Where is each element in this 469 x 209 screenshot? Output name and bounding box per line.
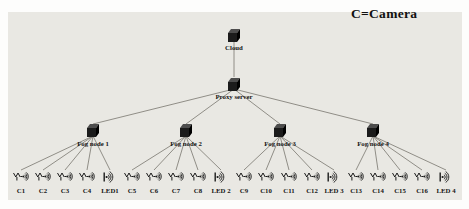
proxy-server-label: Proxy server	[215, 93, 252, 100]
fog-node-label: Fog node 3	[264, 140, 296, 147]
device-label: C11	[283, 187, 295, 194]
device-label: C5	[128, 187, 137, 194]
camera-icon	[259, 172, 274, 180]
camera-icon	[169, 172, 184, 180]
fog-node-icon	[367, 128, 376, 137]
figure-network-diagram: C=Camera CloudProxy serverFog node 1Fog …	[0, 0, 469, 209]
edge-line	[93, 89, 234, 124]
camera-icon	[415, 172, 430, 180]
device-label: LED 4	[436, 187, 456, 194]
device-label: C9	[240, 187, 249, 194]
camera-icon	[349, 172, 364, 180]
device-label: LED1	[101, 187, 119, 194]
fog-node-label: Fog node 4	[357, 140, 389, 147]
cloud-node-icon	[228, 33, 237, 42]
device-label: C14	[372, 187, 384, 194]
camera-icon	[237, 172, 252, 180]
device-label: LED 2	[211, 187, 231, 194]
fog-node-label: Fog node 1	[77, 140, 109, 147]
device-label: C7	[172, 187, 181, 194]
device-label: C1	[17, 187, 26, 194]
camera-icon	[58, 172, 73, 180]
device-label: C6	[150, 187, 159, 194]
device-label: C8	[194, 187, 203, 194]
device-label: C16	[416, 187, 428, 194]
device-label: C12	[306, 187, 318, 194]
device-label: C15	[394, 187, 406, 194]
led-icon	[440, 172, 449, 183]
led-icon	[328, 172, 337, 183]
camera-icon	[191, 172, 206, 180]
camera-icon	[371, 172, 386, 180]
device-label: C2	[39, 187, 48, 194]
camera-icon	[125, 172, 140, 180]
network-topology-canvas: CloudProxy serverFog node 1Fog node 2Fog…	[0, 0, 469, 209]
led-icon	[104, 172, 113, 183]
fog-node-label: Fog node 2	[170, 140, 202, 147]
device-label: C13	[350, 187, 362, 194]
led-icon	[215, 172, 224, 183]
camera-icon	[282, 172, 297, 180]
device-label: C4	[83, 187, 92, 194]
proxy-server-node-icon	[228, 82, 237, 91]
fog-node-icon	[87, 128, 96, 137]
fog-node-icon	[180, 128, 189, 137]
cloud-label: Cloud	[225, 44, 243, 51]
fog-node-icon	[274, 128, 283, 137]
camera-icon	[393, 172, 408, 180]
camera-icon	[80, 172, 95, 180]
camera-icon	[305, 172, 320, 180]
device-label: LED 3	[324, 187, 344, 194]
edge-line	[234, 89, 373, 124]
device-label: C3	[61, 187, 70, 194]
camera-icon	[14, 172, 29, 180]
camera-icon	[36, 172, 51, 180]
device-label: C10	[260, 187, 272, 194]
camera-icon	[147, 172, 162, 180]
